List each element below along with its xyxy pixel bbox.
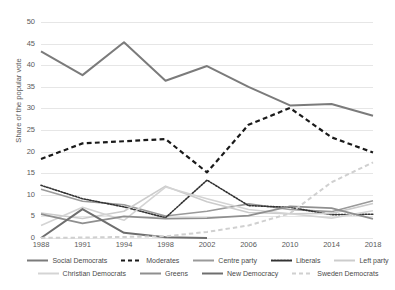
- legend-item[interactable]: Social Democrats: [27, 256, 107, 265]
- y-axis-tick: 10: [9, 191, 35, 199]
- legend-label: Left party: [359, 257, 388, 264]
- legend-label: Moderates: [146, 257, 179, 264]
- y-axis-tick: 30: [9, 104, 35, 112]
- legend-label: Christian Democrats: [63, 270, 126, 277]
- legend-item[interactable]: Greens: [140, 269, 188, 278]
- legend-label: Social Democrats: [52, 257, 107, 264]
- x-axis-tick: 2010: [269, 241, 311, 249]
- x-axis-tick: 2002: [186, 241, 228, 249]
- y-axis-tick: 35: [9, 83, 35, 91]
- legend-item[interactable]: Christian Democrats: [38, 269, 126, 278]
- x-axis-tick: 1998: [145, 241, 187, 249]
- legend-row-2: Christian DemocratsGreensNew DemocracySw…: [30, 267, 386, 280]
- plot-area: [41, 22, 373, 238]
- series-line: [41, 108, 373, 172]
- legend-swatch-icon: [38, 269, 59, 278]
- y-axis-tick: 50: [9, 18, 35, 26]
- y-axis-tick-labels: 05101520253035404550: [6, 0, 35, 260]
- legend: Social DemocratsModeratesCentre partyLib…: [30, 254, 386, 286]
- x-axis-tick: 2014: [311, 241, 353, 249]
- y-axis-tick: 15: [9, 169, 35, 177]
- x-axis-tick: 1994: [103, 241, 145, 249]
- y-axis-tick: 5: [9, 212, 35, 220]
- x-axis-tick: 1991: [62, 241, 104, 249]
- legend-row-1: Social DemocratsModeratesCentre partyLib…: [30, 254, 386, 267]
- legend-item[interactable]: New Democracy: [202, 269, 278, 278]
- legend-label: New Democracy: [227, 270, 278, 277]
- x-axis-tick: 2006: [228, 241, 270, 249]
- line-chart: Share of the popular vote 05101520253035…: [0, 0, 395, 290]
- legend-swatch-icon: [121, 256, 142, 265]
- legend-swatch-icon: [334, 256, 355, 265]
- legend-item[interactable]: Left party: [334, 256, 388, 265]
- series-line: [41, 187, 373, 225]
- gridline: [41, 238, 373, 239]
- legend-swatch-icon: [140, 269, 161, 278]
- legend-label: Greens: [165, 270, 188, 277]
- legend-label: Liberals: [296, 257, 321, 264]
- x-axis-tick: 2018: [352, 241, 394, 249]
- y-axis-tick: 40: [9, 61, 35, 69]
- x-axis-tick-labels: 198819911994199820022006201020142018: [41, 241, 373, 253]
- legend-item[interactable]: Moderates: [121, 256, 179, 265]
- series-line: [41, 42, 373, 115]
- legend-swatch-icon: [27, 256, 48, 265]
- y-axis-tick: 45: [9, 40, 35, 48]
- legend-swatch-icon: [202, 269, 223, 278]
- legend-item[interactable]: Centre party: [193, 256, 257, 265]
- legend-label: Sweden Democrats: [317, 270, 378, 277]
- series-line: [41, 189, 373, 216]
- legend-swatch-icon: [292, 269, 313, 278]
- legend-label: Centre party: [218, 257, 257, 264]
- y-axis-tick: 25: [9, 126, 35, 134]
- legend-item[interactable]: Sweden Democrats: [292, 269, 378, 278]
- legend-item[interactable]: Liberals: [271, 256, 321, 265]
- legend-swatch-icon: [193, 256, 214, 265]
- legend-swatch-icon: [271, 256, 292, 265]
- series-lines: [41, 22, 373, 238]
- x-axis-tick: 1988: [20, 241, 62, 249]
- y-axis-tick: 20: [9, 148, 35, 156]
